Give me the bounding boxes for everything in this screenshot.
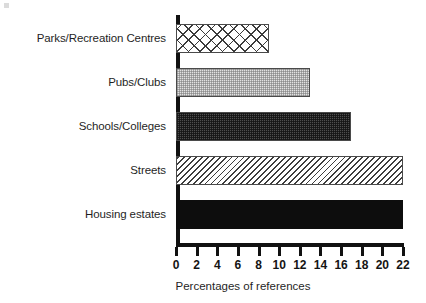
bar-schools-colleges xyxy=(176,112,351,141)
scan-artifact-speck xyxy=(4,3,9,8)
plot-area xyxy=(176,18,403,240)
category-label-streets: Streets xyxy=(0,164,166,176)
x-axis-tick xyxy=(319,247,322,256)
x-axis-tick xyxy=(175,247,178,256)
x-axis-tick xyxy=(381,247,384,256)
category-label-schools-colleges: Schools/Colleges xyxy=(0,120,166,132)
x-axis-tick xyxy=(216,247,219,256)
x-axis-tick xyxy=(196,247,199,256)
x-axis-tick xyxy=(299,247,302,256)
x-axis-tick xyxy=(340,247,343,256)
bar-chart: Parks/Recreation Centres Pubs/Clubs Scho… xyxy=(0,0,426,303)
x-axis-tick-label: 22 xyxy=(390,258,416,272)
bar-pubs-clubs xyxy=(176,68,310,97)
bar-parks-recreation-centres xyxy=(176,24,269,53)
x-axis-tick xyxy=(278,247,281,256)
x-axis-tick xyxy=(237,247,240,256)
bar-housing-estates xyxy=(176,200,403,229)
bar-streets xyxy=(176,156,403,185)
category-label-parks-recreation-centres: Parks/Recreation Centres xyxy=(0,32,166,44)
x-axis-title: Percentages of references xyxy=(0,280,426,292)
category-label-housing-estates: Housing estates xyxy=(0,208,166,220)
x-axis-tick xyxy=(402,247,405,256)
x-axis-tick xyxy=(361,247,364,256)
x-axis-tick xyxy=(258,247,261,256)
category-label-pubs-clubs: Pubs/Clubs xyxy=(0,76,166,88)
x-axis-line xyxy=(176,243,404,247)
